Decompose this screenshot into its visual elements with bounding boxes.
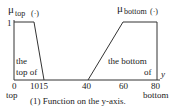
bottom-region-label-line1: the bottom [108, 56, 147, 66]
bottom-region-label-line2: of [144, 67, 152, 77]
mu-top-arg: (·) [31, 9, 39, 18]
x-sublabel-top: top [6, 90, 18, 100]
x-tick-60: 60 [119, 81, 129, 91]
y-tick-1: 1 [7, 18, 12, 28]
membership-function-chart: μ top (·) μ bottom (·) 1 the top of the … [0, 0, 181, 109]
mu-bottom-symbol: μ [117, 2, 123, 14]
x-tick-40: 40 [82, 81, 92, 91]
x-sublabel-bottom: bottom [143, 90, 169, 100]
mu-bottom-subscript: bottom [124, 7, 147, 16]
figure-caption: (1) Function on the y-axis. [30, 96, 126, 106]
top-region-label-line1: the [16, 56, 27, 66]
mu-top-symbol: μ [8, 3, 14, 15]
x-axis-variable: y [160, 69, 165, 79]
mu-bottom-arg: (·) [150, 7, 158, 16]
top-region-label-line2: top of [16, 67, 37, 77]
mu-top-subscript: top [15, 9, 25, 18]
x-tick-10-15: 1015 [30, 81, 49, 91]
